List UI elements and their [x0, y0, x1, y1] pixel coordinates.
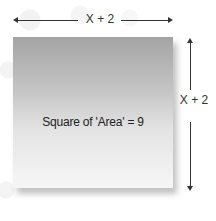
- arrow-line-top: [190, 42, 191, 90]
- top-dimension-arrow: X + 2: [13, 16, 173, 26]
- arrow-line-right: [121, 20, 170, 21]
- side-dimension-arrow: X + 2: [186, 38, 196, 191]
- arrow-right-icon: [168, 17, 173, 23]
- top-dimension-label: X + 2: [79, 12, 121, 26]
- arrow-line-left: [16, 20, 78, 21]
- side-dimension-label: X + 2: [174, 93, 214, 107]
- square-shape: Square of 'Area' = 9: [13, 37, 173, 188]
- square-area-label: Square of 'Area' = 9: [13, 115, 173, 129]
- arrow-down-icon: [187, 186, 193, 191]
- arrow-line-bottom: [190, 122, 191, 186]
